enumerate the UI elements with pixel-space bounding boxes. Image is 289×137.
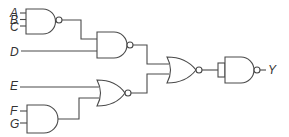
wire-g3-g4 [58, 98, 99, 119]
wires-abc [20, 13, 26, 26]
logic-circuit-diagram: A B C D E F G Y [0, 0, 289, 137]
nor-gate-middle [167, 57, 202, 83]
wire-g1-g2 [62, 20, 97, 39]
input-label-e: E [10, 79, 19, 93]
input-label-c: C [10, 20, 19, 34]
input-label-g: G [10, 117, 19, 131]
input-label-d: D [10, 45, 19, 59]
output-label-y: Y [268, 63, 277, 77]
and-gate-fg [20, 105, 58, 133]
nor-gate-lower [97, 80, 131, 106]
nand-gate-1 [26, 9, 62, 34]
wire-g2-g5 [133, 45, 169, 64]
nand-gate-final [218, 57, 266, 83]
nand-gate-2 [97, 32, 133, 58]
input-label-f: F [10, 104, 18, 118]
wire-g4-g5 [131, 74, 169, 93]
